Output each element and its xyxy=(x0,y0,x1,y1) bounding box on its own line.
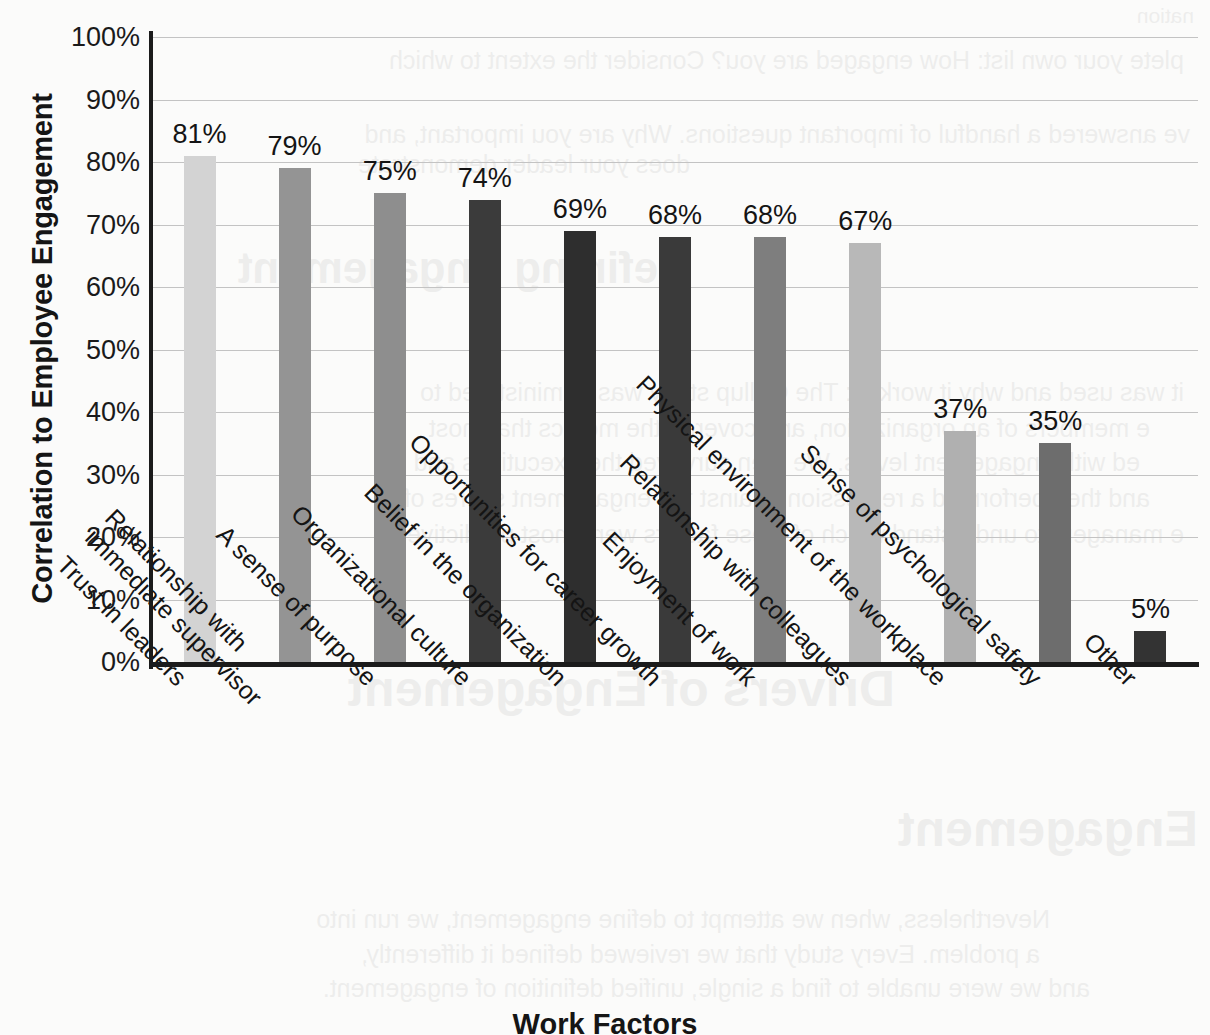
bar-value-label: 81% xyxy=(173,119,227,150)
y-axis-tick-label: 20% xyxy=(18,522,140,553)
y-axis-tick-label: 0% xyxy=(18,647,140,678)
y-axis-line xyxy=(149,31,153,669)
bar-value-label: 68% xyxy=(648,200,702,231)
bar[interactable] xyxy=(1134,631,1166,662)
x-axis-category-labels: Trust in leadersRelationship withimmedia… xyxy=(152,672,1198,1002)
bar-value-label: 79% xyxy=(268,131,322,162)
bar-group: 5% xyxy=(1103,37,1198,662)
bar-value-label: 67% xyxy=(838,206,892,237)
y-axis-tick-label: 100% xyxy=(18,22,140,53)
y-axis-tick-label: 30% xyxy=(18,459,140,490)
x-axis-line xyxy=(149,662,1199,667)
bar-value-label: 74% xyxy=(458,163,512,194)
y-axis-tick-label: 70% xyxy=(18,209,140,240)
bar-value-label: 35% xyxy=(1028,406,1082,437)
bar-value-label: 68% xyxy=(743,200,797,231)
y-axis-tick-label: 90% xyxy=(18,84,140,115)
x-axis-title: Work Factors xyxy=(0,1008,1210,1035)
y-axis-tick-label: 10% xyxy=(18,584,140,615)
bleedthrough-text: nation xyxy=(1137,4,1194,28)
bar-group: 35% xyxy=(1008,37,1103,662)
bar-value-label: 75% xyxy=(363,156,417,187)
bar-series: 81%79%75%74%69%68%68%67%37%35%5% xyxy=(152,37,1198,662)
y-axis-tick-label: 40% xyxy=(18,397,140,428)
y-axis-tick-labels: 0%10%20%30%40%50%60%70%80%90%100% xyxy=(0,37,140,662)
y-axis-tick-label: 60% xyxy=(18,272,140,303)
bar-value-label: 69% xyxy=(553,194,607,225)
y-axis-tick-label: 50% xyxy=(18,334,140,365)
y-axis-tick-label: 80% xyxy=(18,147,140,178)
bar-value-label: 5% xyxy=(1131,594,1170,625)
bar-value-label: 37% xyxy=(933,394,987,425)
bar-chart-figure: nationplete your own list: How engaged a… xyxy=(0,0,1210,1035)
bar[interactable] xyxy=(1039,443,1071,662)
